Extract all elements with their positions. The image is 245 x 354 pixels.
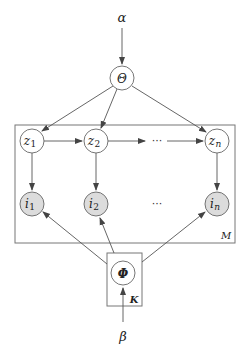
z-ellipsis: ··· [152,134,163,147]
plate-m-label: M [220,230,232,241]
node-z1: z1 [20,129,44,153]
i-ellipsis: ··· [152,197,163,210]
theta-label: Θ [117,72,127,86]
node-phi: Φ [111,261,135,285]
edge-theta-z2 [101,89,117,128]
node-zn: zn [205,129,229,153]
edge-phi-i2 [100,218,114,253]
node-z2: z2 [84,129,108,153]
graphical-model-diagram: α β Θ z1 z2 ··· zn i1 i2 ··· in M K Φ [0,0,245,354]
plate-k-label: K [129,294,140,305]
edge-phi-in [142,212,205,262]
node-i1: i1 [20,192,44,216]
edge-phi-i1 [43,212,107,264]
node-i2: i2 [84,192,108,216]
beta-label: β [118,329,127,344]
node-theta: Θ [110,66,134,90]
phi-label: Φ [118,267,129,281]
node-in: in [205,192,229,216]
alpha-label: α [118,10,127,25]
plate-m [15,125,235,243]
